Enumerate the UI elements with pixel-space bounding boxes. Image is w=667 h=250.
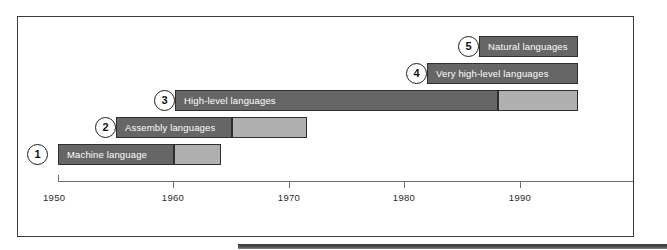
axis-label-1990: 1990 — [509, 192, 531, 203]
marker-number-5: 5 — [458, 36, 479, 57]
marker-number-2: 2 — [95, 117, 116, 138]
axis-tick-1950 — [58, 175, 59, 182]
axis-label-1960: 1960 — [162, 192, 184, 203]
axis-tick-1980 — [404, 181, 405, 188]
marker-number-3: 3 — [154, 90, 175, 111]
bar-row-natural-languages: Natural languages — [479, 36, 578, 57]
bar-label-high-level-languages: High-level languages — [184, 90, 276, 111]
bar-label-assembly-languages: Assembly languages — [125, 117, 215, 138]
bar-row-very-high-level-languages: Very high-level languages — [427, 63, 578, 84]
axis-label-1980: 1980 — [393, 192, 415, 203]
timeline-chart: Natural languages 5 Very high-level lang… — [0, 0, 667, 250]
bar-label-very-high-level-languages: Very high-level languages — [436, 63, 549, 84]
bar-label-natural-languages: Natural languages — [488, 36, 568, 57]
timeline-axis-line — [58, 181, 633, 182]
bar-row-high-level-languages: High-level languages — [175, 90, 578, 111]
bar-segment-light-assembly-languages — [232, 117, 307, 138]
marker-number-1: 1 — [27, 144, 48, 165]
axis-tick-1960 — [173, 181, 174, 188]
axis-label-1950: 1950 — [43, 192, 65, 203]
axis-label-1970: 1970 — [278, 192, 300, 203]
axis-tick-1970 — [289, 181, 290, 188]
bar-row-machine-language: Machine language — [58, 144, 221, 165]
marker-number-4: 4 — [406, 63, 427, 84]
bar-segment-light-high-level-languages — [498, 90, 578, 111]
bar-label-machine-language: Machine language — [67, 144, 147, 165]
bar-segment-light-machine-language — [174, 144, 221, 165]
figure-bottom-shadow-bar — [238, 244, 667, 249]
axis-tick-1990 — [520, 181, 521, 188]
bar-row-assembly-languages: Assembly languages — [116, 117, 307, 138]
